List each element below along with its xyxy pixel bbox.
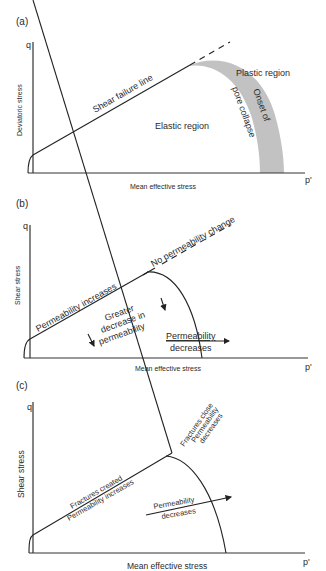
panel-b-perm-decreases-line2: decreases [170,343,212,353]
panel-c-y-title: Shear stress [16,450,26,498]
shear-failure-line-label: Shear failure line [91,72,154,114]
panel-c: (c) q p' Shear stress Mean effective str… [16,0,310,571]
panel-a-y-symbol: q [26,40,31,50]
panel-a-label: (a) [16,16,28,27]
panel-a-x-symbol: p' [305,175,312,185]
panel-b-y-title: Shear stress [14,265,21,305]
figure-canvas: (a) q p' Deviatoric stress Mean effectiv… [0,0,326,571]
panel-c-shear-line [33,0,172,453]
panel-b-arrow-right [161,298,165,310]
elastic-region-label: Elastic region [155,121,209,131]
panel-a: (a) q p' Deviatoric stress Mean effectiv… [16,16,312,190]
panel-b-arrow-left [88,334,94,346]
panel-b-tension-cap [24,339,30,358]
no-permeability-change-label: No permeability change [149,214,237,269]
panel-a-tension-cap [28,155,33,173]
panel-b-perm-decreases-line1: Permeability [166,331,216,341]
panel-c-label: (c) [16,380,28,391]
panel-c-x-title: Mean effective stress [127,561,207,571]
panel-b-y-symbol: q [23,221,28,231]
panel-b: (b) q p' Shear stress Mean effective str… [14,198,312,372]
panel-b-label: (b) [16,198,28,209]
panel-c-y-symbol: q [27,402,32,412]
panel-a-y-title: Deviatoric stress [16,84,23,136]
panel-a-x-title: Mean effective stress [130,183,197,190]
plastic-region-label: Plastic region [236,68,290,78]
panel-b-x-symbol: p' [305,362,312,372]
panel-c-x-symbol: p' [303,557,310,567]
